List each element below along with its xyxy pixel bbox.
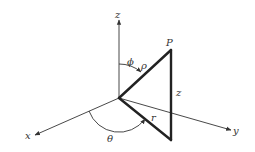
rho-label: ρ [140,60,147,71]
theta-label: θ [107,133,113,144]
y-axis-label: y [232,125,239,136]
z-axis-label: z [114,9,121,20]
r-label: r [151,112,157,123]
y-axis [119,98,231,130]
phi-label: ϕ [127,56,134,67]
z-side-label: z [175,87,182,98]
coordinate-diagram: z x y P ϕ ρ z r θ [0,0,255,152]
x-axis-label: x [25,130,31,141]
theta-arc [89,111,145,132]
point-p-label: P [165,37,173,48]
